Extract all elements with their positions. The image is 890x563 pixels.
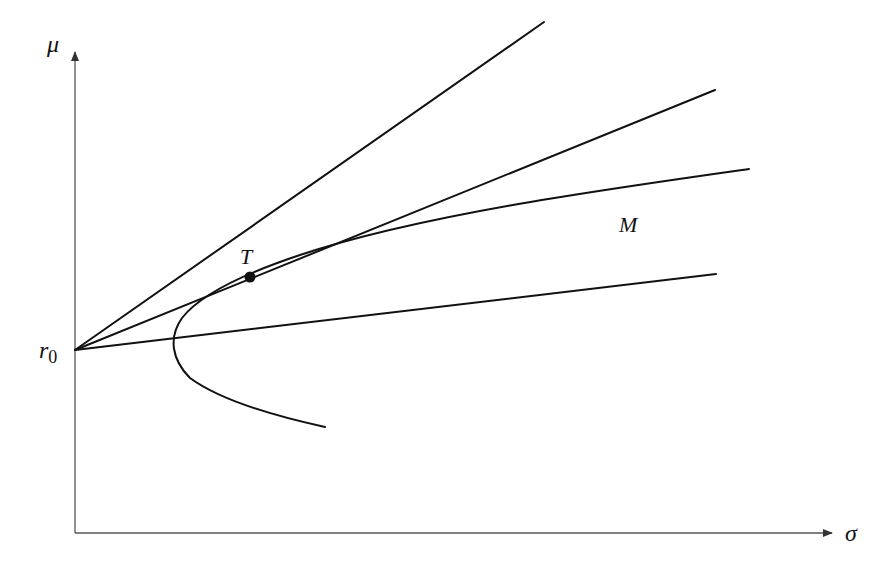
- y-axis-label: μ: [46, 31, 59, 57]
- frontier-hyperbola: [174, 169, 749, 427]
- intercept-label-sub: 0: [48, 347, 57, 367]
- diagram-canvas: μ σ r0 T M: [0, 0, 890, 563]
- region-label-m: M: [618, 212, 639, 237]
- x-axis-label: σ: [845, 520, 858, 546]
- steep-line: [75, 22, 544, 350]
- tangency-point: [245, 272, 256, 283]
- tangency-label: T: [240, 244, 254, 269]
- intercept-label: r0: [39, 337, 57, 367]
